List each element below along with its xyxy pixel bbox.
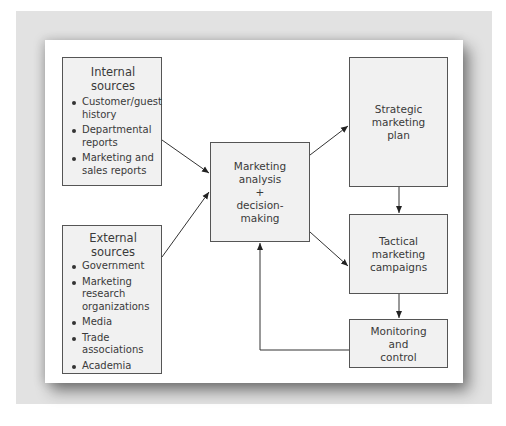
- external-sources-box: External sources Government Marketing re…: [62, 225, 162, 374]
- marketing-analysis-label: Marketing analysis + decision- making: [211, 160, 309, 225]
- list-item: Academia: [71, 360, 157, 373]
- list-item: Government: [71, 260, 157, 273]
- label-line: marketing: [350, 116, 447, 129]
- label-line: control: [350, 350, 447, 363]
- marketing-analysis-box: Marketing analysis + decision- making: [210, 142, 310, 242]
- list-item: Departmental reports: [71, 124, 157, 149]
- monitoring-control-label: Monitoring and control: [350, 324, 447, 363]
- monitoring-control-box: Monitoring and control: [349, 319, 448, 368]
- list-item: Marketing and sales reports: [71, 152, 157, 177]
- label-line: Marketing: [211, 160, 309, 173]
- list-item: Customer/guest history: [71, 96, 157, 121]
- label-line: analysis: [211, 173, 309, 186]
- label-line: plan: [350, 129, 447, 142]
- label-line: Strategic: [350, 103, 447, 116]
- label-line: decision-: [211, 199, 309, 212]
- label-line: and: [350, 337, 447, 350]
- external-sources-title: External sources: [83, 231, 143, 259]
- label-line: making: [211, 212, 309, 225]
- tactical-campaigns-label: Tactical marketing campaigns: [350, 235, 447, 274]
- internal-sources-box: Internal sources Customer/guest history …: [62, 57, 162, 186]
- tactical-campaigns-box: Tactical marketing campaigns: [349, 214, 448, 294]
- strategic-plan-box: Strategic marketing plan: [349, 57, 448, 187]
- label-line: Tactical: [350, 235, 447, 248]
- internal-sources-list: Customer/guest history Departmental repo…: [63, 96, 161, 177]
- external-sources-list: Government Marketing research organizati…: [63, 260, 161, 372]
- list-item: Trade associations: [71, 332, 157, 357]
- label-line: Monitoring: [350, 324, 447, 337]
- list-item: Marketing research organizations: [71, 276, 157, 314]
- label-line: campaigns: [350, 261, 447, 274]
- strategic-plan-label: Strategic marketing plan: [350, 103, 447, 142]
- internal-sources-title: Internal sources: [83, 65, 143, 93]
- list-item: Media: [71, 316, 157, 329]
- label-line: marketing: [350, 248, 447, 261]
- label-line: +: [211, 186, 309, 199]
